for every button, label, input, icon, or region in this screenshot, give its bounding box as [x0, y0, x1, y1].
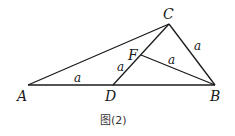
point-label-b: B [209, 88, 220, 104]
segment-label-cb: a [194, 39, 201, 53]
segment-cd [113, 24, 169, 85]
point-label-d: D [104, 88, 116, 104]
triangle-diagram: C A D B F a a a a 图(2) [0, 0, 235, 136]
segment-label-ad: a [74, 71, 81, 85]
segment-ac [28, 24, 169, 85]
point-label-a: A [15, 88, 27, 104]
segment-label-df: a [117, 60, 124, 74]
point-label-c: C [163, 6, 174, 22]
segment-label-fb: a [168, 53, 175, 67]
figure-caption: 图(2) [100, 114, 127, 127]
point-label-f: F [127, 47, 139, 63]
